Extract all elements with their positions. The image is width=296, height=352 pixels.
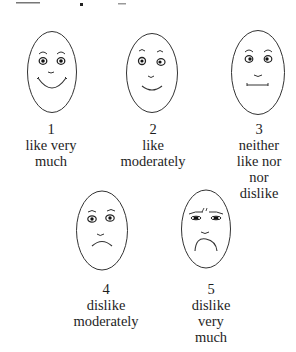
scale-label-2: 2 like moderately xyxy=(103,121,203,169)
scale-number: 3 xyxy=(209,121,296,137)
scale-number: 1 xyxy=(1,121,101,137)
scale-label-4: 4 dislike moderately xyxy=(56,281,156,329)
face-1-like-very-much xyxy=(26,30,78,115)
cropped-heading-remnant xyxy=(0,0,296,3)
scale-number: 5 xyxy=(161,281,261,297)
face-2-like-moderately xyxy=(125,32,179,115)
scale-number: 4 xyxy=(56,281,156,297)
scale-label-1: 1 like very much xyxy=(1,121,101,169)
face-4-dislike-moderately xyxy=(75,190,129,272)
face-5-dislike-very-much xyxy=(180,189,232,270)
scale-label-5: 5 dislike very much xyxy=(161,281,261,345)
scale-number: 2 xyxy=(103,121,203,137)
face-3-neutral xyxy=(230,29,286,117)
